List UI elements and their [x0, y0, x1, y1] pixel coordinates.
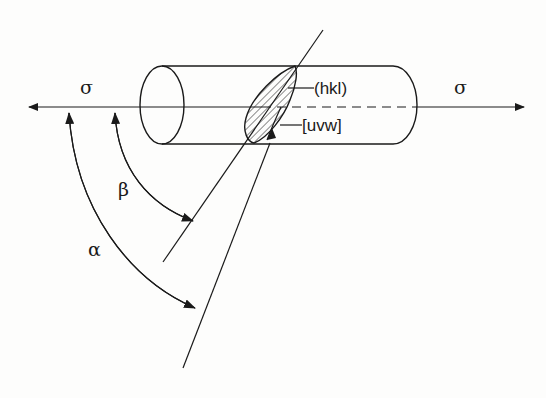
slip-plane-normal-line — [163, 30, 323, 262]
alpha-angle-arc — [69, 113, 195, 308]
schmid-diagram — [0, 0, 546, 398]
stress-label-left: σ — [80, 78, 93, 97]
cylinder-right-cap — [393, 66, 417, 144]
slip-direction-label: [uvw] — [302, 117, 342, 134]
angle-alpha-label: α — [88, 240, 101, 259]
angle-beta-label: β — [118, 180, 129, 199]
beta-angle-arc — [115, 113, 193, 221]
slip-plane-label: (hkl) — [314, 80, 347, 97]
cylinder-left-end — [140, 66, 184, 144]
alpha-angle-arc-start — [69, 113, 195, 308]
beta-angle-arc-head — [115, 113, 193, 221]
slip-direction-line — [183, 143, 270, 368]
stress-label-right: σ — [454, 78, 467, 97]
figure-canvas: σ σ (hkl) [uvw] β α — [0, 0, 546, 398]
